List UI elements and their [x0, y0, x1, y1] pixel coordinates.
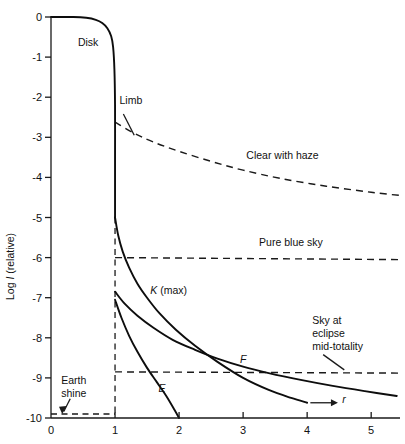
y-tick-label: -4: [32, 171, 42, 183]
annotation-r_axis_label: r: [342, 393, 346, 405]
y-tick-label: -9: [32, 372, 42, 384]
eclipse-brightness-chart: 0-1-2-3-4-5-6-7-8-9-10 012345 DiskLimbCl…: [0, 0, 405, 444]
annotation-f_label: F: [240, 353, 247, 365]
x-tick-label: 3: [240, 424, 246, 436]
annotation-limb: Limb: [120, 94, 143, 106]
annotation-earth_shine_line2: shine: [61, 387, 86, 399]
annotation-disk: Disk: [78, 36, 99, 48]
curve-sky-at-eclipse-mid-totality: [115, 372, 400, 373]
x-axis-ticks: [115, 412, 371, 418]
y-tick-label: -7: [32, 292, 42, 304]
annotation-sky_eclipse_line2: eclipse: [312, 327, 345, 339]
x-tick-label: 1: [112, 424, 118, 436]
r-arrow-head: [331, 399, 338, 406]
y-axis-ticks: [45, 17, 51, 418]
annotation-clear_haze: Clear with haze: [246, 149, 319, 161]
curve-e-emission: [115, 300, 179, 418]
annotation-sky_eclipse_line3: mid-totality: [312, 340, 364, 352]
y-tick-label: -5: [32, 212, 42, 224]
annotation-sky_eclipse_line1: Sky at: [312, 314, 341, 326]
y-tick-label: -8: [32, 332, 42, 344]
y-tick-label: 0: [36, 11, 42, 23]
limb-leader-line: [123, 114, 134, 135]
annotation-pure_blue_sky: Pure blue sky: [259, 236, 323, 248]
x-axis-tick-labels: 012345: [48, 424, 374, 436]
y-tick-label: -6: [32, 252, 42, 264]
x-tick-label: 0: [48, 424, 54, 436]
x-tick-label: 5: [368, 424, 374, 436]
earth-shine-leader-line: [64, 399, 70, 412]
curve-pure-blue-sky: [115, 258, 400, 260]
y-tick-label: -10: [26, 412, 42, 424]
chart-annotations: DiskLimbClear with hazePure blue skyK (m…: [61, 36, 364, 405]
annotation-e_label: E: [159, 382, 167, 394]
y-tick-label: -1: [32, 51, 42, 63]
chart-canvas: 0-1-2-3-4-5-6-7-8-9-10 012345 DiskLimbCl…: [0, 0, 405, 444]
earth-shine-arrow-head: [59, 406, 67, 414]
annotation-k_max: K (max): [150, 284, 187, 296]
reference-lines: [51, 122, 400, 414]
annotation-earth_shine_line1: Earth: [61, 374, 86, 386]
y-axis-tick-labels: 0-1-2-3-4-5-6-7-8-9-10: [26, 11, 42, 424]
data-curves: [51, 17, 397, 418]
y-tick-label: -3: [32, 131, 42, 143]
y-tick-label: -2: [32, 91, 42, 103]
x-tick-label: 2: [176, 424, 182, 436]
x-tick-label: 4: [304, 424, 310, 436]
y-axis-title-text: Log I (relative): [4, 233, 16, 300]
sky-eclipse-leader-line: [323, 355, 344, 370]
y-axis-title: Log I (relative): [4, 233, 16, 300]
